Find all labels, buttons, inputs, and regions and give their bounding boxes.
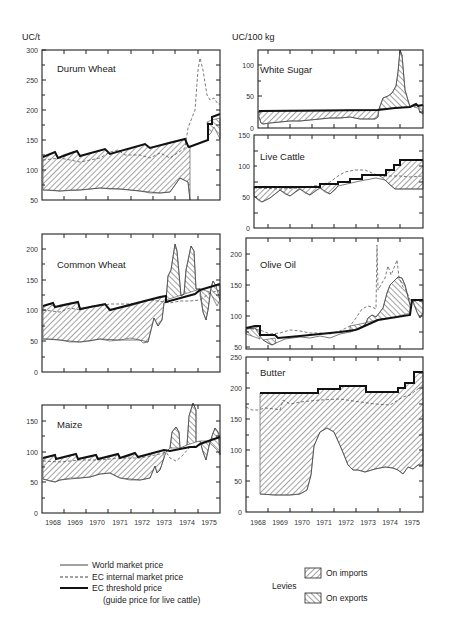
olive-ytick: 200: [230, 251, 242, 258]
cattle-title: Live Cattle: [260, 151, 305, 162]
panel-common-wheat: 200 150 100 50 0 Common Wheat: [26, 234, 220, 376]
common-export-levy-area: [166, 244, 220, 320]
maize-ytick: 150: [26, 418, 38, 425]
legend-exports-swatch: [305, 593, 321, 603]
legend-imports-swatch: [305, 568, 321, 578]
durum-ytick: 300: [26, 47, 38, 54]
legend-threshold-note: (guide price for live cattle): [103, 595, 200, 605]
durum-ytick: 150: [26, 137, 38, 144]
olive-ytick: 100: [230, 313, 242, 320]
common-import-levy-area: [43, 296, 166, 343]
legend-imports-label: On imports: [326, 568, 368, 578]
panel-olive-oil: 200 150 100 50 Olive Oil: [230, 238, 423, 351]
right-unit-label: UC/100 kg: [232, 32, 275, 42]
year-label: 1971: [112, 519, 128, 526]
maize-ytick: 50: [30, 479, 38, 486]
maize-title: Maize: [57, 419, 82, 430]
left-unit-label: UC/t: [22, 32, 40, 42]
durum-ytick: 50: [30, 197, 38, 204]
common-ytick: 150: [26, 277, 38, 284]
panel-durum-wheat: 300 250 200 150 100 50 Durum Wheat: [26, 47, 220, 204]
sugar-import-levy-area: [259, 110, 378, 124]
butter-ytick: 50: [234, 478, 242, 485]
year-label: 1971: [316, 519, 332, 526]
left-x-axis-years: 1968 1969 1970 1971 1972 1973 1974 1975: [45, 519, 217, 526]
cattle-ytick: 0: [246, 225, 250, 232]
year-label: 1972: [338, 519, 354, 526]
year-label: 1968: [250, 519, 266, 526]
legend-threshold-label: EC threshold price: [92, 583, 162, 593]
butter-ytick: 0: [238, 509, 242, 516]
durum-ytick: 250: [26, 77, 38, 84]
year-label: 1970: [89, 519, 105, 526]
durum-title: Durum Wheat: [57, 63, 116, 74]
maize-ytick: 0: [34, 510, 38, 517]
olive-title: Olive Oil: [260, 259, 296, 270]
cattle-ytick: 150: [238, 132, 250, 139]
year-label: 1974: [179, 519, 195, 526]
maize-export-levy-area: [170, 403, 220, 460]
year-label: 1972: [134, 519, 150, 526]
year-label: 1969: [67, 519, 83, 526]
year-label: 1975: [201, 519, 217, 526]
butter-ytick: 150: [230, 416, 242, 423]
sugar-ytick: 100: [242, 62, 254, 69]
common-ytick: 200: [26, 246, 38, 253]
year-label: 1973: [360, 519, 376, 526]
year-label: 1974: [382, 519, 398, 526]
year-label: 1975: [404, 519, 420, 526]
right-x-axis-years: 1968 1969 1970 1971 1972 1973 1974 1975: [250, 519, 420, 526]
butter-ytick: 250: [230, 354, 242, 361]
panel-maize: 150 100 50 0 Maize: [26, 403, 220, 517]
sugar-ytick: 0: [250, 125, 254, 132]
butter-ytick: 200: [230, 385, 242, 392]
durum-ytick: 200: [26, 107, 38, 114]
sugar-ytick: 50: [246, 93, 254, 100]
cap-price-charts: UC/t 300 250 200 150 100 50 Durum Wheat: [0, 0, 449, 638]
maize-ytick: 100: [26, 449, 38, 456]
legend-levies-label: Levies: [272, 581, 297, 591]
legend-internal-label: EC internal market price: [92, 572, 183, 582]
legend: World market price EC internal market pr…: [60, 560, 368, 605]
durum-ytick: 100: [26, 167, 38, 174]
legend-world-label: World market price: [92, 560, 163, 570]
legend-exports-label: On exports: [326, 593, 368, 603]
year-label: 1970: [294, 519, 310, 526]
olive-ytick: 50: [234, 344, 242, 351]
cattle-ytick: 50: [242, 194, 250, 201]
common-title: Common Wheat: [57, 259, 126, 270]
butter-ytick: 100: [230, 447, 242, 454]
common-ytick: 100: [26, 307, 38, 314]
year-label: 1973: [156, 519, 172, 526]
common-ytick: 50: [30, 338, 38, 345]
panel-white-sugar: 100 50 0 White Sugar: [242, 50, 423, 132]
panel-butter: 250 200 150 100 50 0 Butter: [230, 354, 423, 516]
common-ytick: 0: [34, 369, 38, 376]
cattle-ytick: 100: [238, 163, 250, 170]
year-label: 1969: [272, 519, 288, 526]
butter-title: Butter: [260, 367, 285, 378]
olive-ytick: 150: [230, 282, 242, 289]
sugar-title: White Sugar: [260, 64, 312, 75]
year-label: 1968: [45, 519, 61, 526]
panel-live-cattle: 150 100 50 0 Live Cattle: [238, 132, 423, 232]
